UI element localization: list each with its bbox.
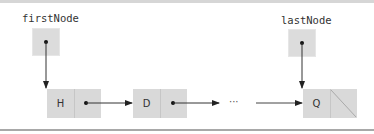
null-slash-icon <box>331 90 356 117</box>
arrows-layer <box>0 0 374 134</box>
bottom-border <box>0 129 374 131</box>
